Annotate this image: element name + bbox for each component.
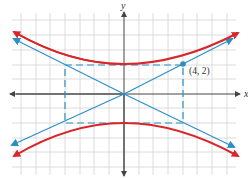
lower-branch-left bbox=[14, 123, 124, 156]
point-label: (4, 2) bbox=[189, 66, 210, 77]
upper-branch-left-tip bbox=[14, 32, 124, 64]
point-4-2 bbox=[180, 61, 186, 67]
hyperbola-diagram: (4, 2) y x bbox=[0, 0, 248, 178]
lower-branch bbox=[124, 123, 238, 156]
x-axis-label: x bbox=[243, 88, 248, 99]
asymptote-negative bbox=[14, 39, 124, 94]
asymptote-positive-neg bbox=[12, 94, 124, 145]
asymptote-positive bbox=[124, 39, 232, 94]
asymptote-negative-neg bbox=[124, 94, 234, 147]
y-axis-label: y bbox=[120, 0, 126, 11]
asymptotes bbox=[12, 39, 234, 147]
